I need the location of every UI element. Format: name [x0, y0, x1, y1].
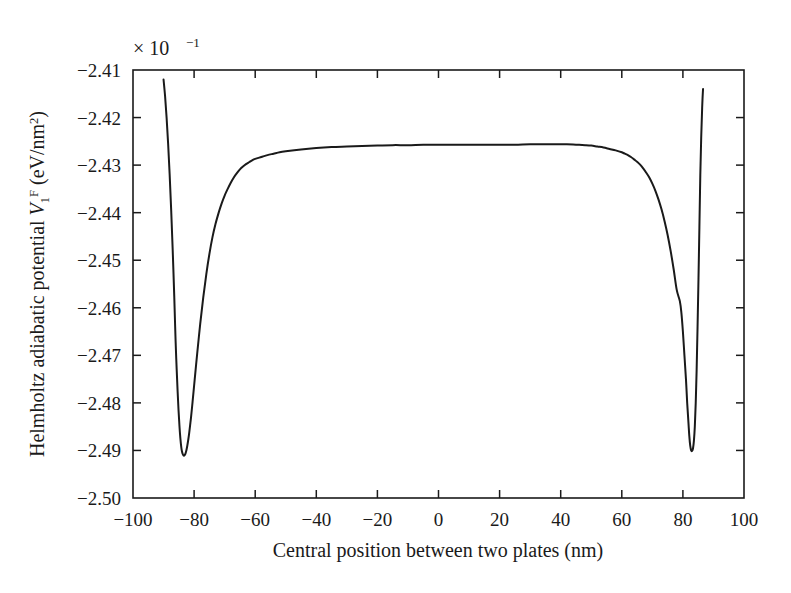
x-tick-label: 20 [490, 509, 509, 530]
y-axis-title-units: (eV/nm [26, 123, 49, 190]
x-tick-label: −100 [113, 509, 152, 530]
y-tick-label: −2.49 [77, 440, 121, 461]
x-tick-label: 40 [551, 509, 570, 530]
y-axis-title-superscript: F [27, 190, 41, 197]
y-axis-title-units-close: ) [26, 111, 49, 118]
x-tick-label: 80 [673, 509, 692, 530]
y-tick-label: −2.42 [77, 108, 121, 129]
x-axis-title: Central position between two plates (nm) [273, 539, 603, 562]
y-tick-label: −2.50 [77, 488, 121, 509]
y-tick-label: −2.41 [77, 60, 121, 81]
y-axis-multiplier-exponent: −1 [186, 35, 200, 50]
y-tick-label: −2.43 [77, 155, 121, 176]
x-tick-label: −80 [179, 509, 209, 530]
y-tick-label: −2.47 [77, 345, 121, 366]
chart-figure: × 10 −1 −100−80−60−40−20020406080100 −2.… [0, 0, 791, 593]
y-axis-multiplier: × 10 [133, 37, 169, 59]
y-axis-title-main: Helmholtz adiabatic potential [26, 215, 49, 457]
x-tick-label: 60 [612, 509, 631, 530]
y-tick-label: −2.46 [77, 298, 121, 319]
x-tick-label: −20 [363, 509, 393, 530]
y-tick-label: −2.48 [77, 393, 121, 414]
x-tick-label: −60 [240, 509, 270, 530]
helmholtz-potential-chart: × 10 −1 −100−80−60−40−20020406080100 −2.… [0, 0, 791, 593]
y-tick-label: −2.44 [77, 203, 121, 224]
y-tick-label: −2.45 [77, 250, 121, 271]
x-tick-label: 0 [434, 509, 444, 530]
x-tick-label: 100 [730, 509, 759, 530]
x-tick-label: −40 [301, 509, 331, 530]
